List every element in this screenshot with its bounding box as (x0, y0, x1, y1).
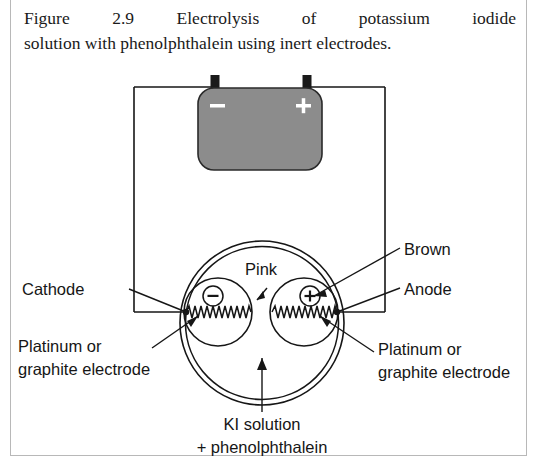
diagram-labels: Cathode Pink Brown Anode Platinum or gra… (18, 240, 510, 456)
battery-minus-icon (210, 104, 225, 108)
label-platinum-right-line-1: Platinum or (378, 340, 462, 358)
label-anode: Anode (404, 280, 452, 298)
battery-negative-terminal-post (211, 75, 220, 89)
label-solution-line-2: + phenolphthalein (197, 438, 328, 456)
leader-cathode (129, 289, 186, 312)
cathode-region (183, 278, 252, 346)
battery (198, 75, 322, 170)
cathode-minus-icon (208, 295, 219, 297)
label-brown: Brown (404, 240, 451, 258)
label-platinum-left-line-1: Platinum or (18, 337, 102, 355)
battery-positive-terminal-post (303, 75, 312, 89)
label-platinum-right-line-2: graphite electrode (378, 363, 510, 381)
leader-anode (337, 288, 400, 312)
leader-solution-arrowhead (257, 358, 267, 370)
figure-container: Figure 2.9 Electrolysis of potassium iod… (0, 0, 539, 469)
label-pink: Pink (245, 260, 278, 278)
anode-electrode-zigzag (272, 306, 337, 318)
cathode-electrode-zigzag (186, 306, 251, 318)
label-cathode: Cathode (22, 280, 84, 298)
label-platinum-left-line-2: graphite electrode (18, 360, 150, 378)
label-solution-line-1: KI solution (223, 415, 300, 433)
electrolysis-diagram: Cathode Pink Brown Anode Platinum or gra… (0, 0, 539, 469)
